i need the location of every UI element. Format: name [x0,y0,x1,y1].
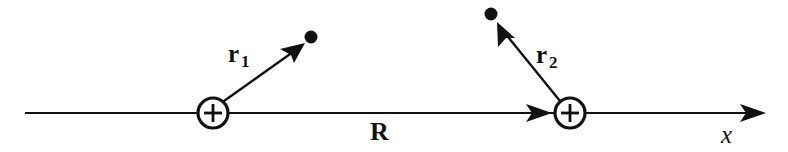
physics-figure: r1 r2 R x [0,0,788,152]
vector-r1-label-base: r [228,40,239,67]
vector-r2-label-subscript: 2 [549,53,558,72]
x-axis-label: x [721,122,732,147]
figure-canvas [0,0,788,152]
vector-r2-label: r2 [536,42,558,71]
vector-r2-label-base: r [536,41,547,68]
field-point-1-dot [305,31,318,44]
vector-r1-label: r1 [228,41,250,70]
charge-left [198,98,228,128]
charge-right [555,98,585,128]
vector-R-label: R [370,119,389,145]
field-point-2-dot [485,8,498,21]
vector-r1-label-subscript: 1 [241,52,250,71]
